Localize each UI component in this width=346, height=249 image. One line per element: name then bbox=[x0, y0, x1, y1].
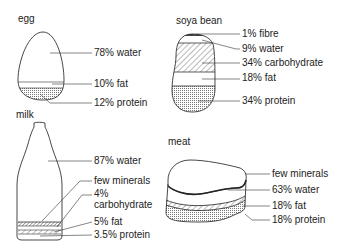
food-composition-diagram: egg 78% water 10% fat 12% protein soya b… bbox=[0, 0, 346, 249]
egg-water-label: 78% water bbox=[94, 47, 142, 58]
egg-title: egg bbox=[18, 13, 35, 24]
soya-bean-panel: soya bean 1% fibre 9% water 34% carbohyd… bbox=[165, 15, 324, 116]
milk-carbohydrate-label: carbohydrate bbox=[94, 199, 153, 210]
milk-minerals-label: few minerals bbox=[94, 175, 150, 186]
bean-carbohydrate-layer bbox=[165, 43, 220, 72]
bean-fat-label: 18% fat bbox=[242, 72, 276, 83]
milk-water-label: 87% water bbox=[94, 155, 142, 166]
milk-panel: milk 87% water few minerals 4% carbohydr… bbox=[16, 109, 153, 240]
bean-layers bbox=[165, 30, 220, 116]
soya-bean-title: soya bean bbox=[176, 15, 222, 26]
milk-fat-label: 5% fat bbox=[94, 216, 123, 227]
meat-top-outline bbox=[168, 160, 246, 194]
milk-protein-label: 3.5% protein bbox=[94, 229, 150, 240]
bean-water-label: 9% water bbox=[242, 43, 284, 54]
bean-carbohydrate-label: 34% carbohydrate bbox=[242, 57, 324, 68]
milk-carbohydrate-layer bbox=[18, 222, 61, 226]
bean-protein-label: 34% protein bbox=[242, 95, 295, 106]
egg-protein-label: 12% protein bbox=[94, 97, 147, 108]
milk-title: milk bbox=[16, 109, 35, 120]
meat-minerals-label: few minerals bbox=[272, 168, 328, 179]
meat-fat-label: 18% fat bbox=[272, 200, 306, 211]
meat-water-label: 63% water bbox=[272, 184, 320, 195]
meat-title: meat bbox=[168, 136, 190, 147]
egg-fat-label: 10% fat bbox=[94, 78, 128, 89]
meat-panel: meat few minerals 63% water 18% fat 18% … bbox=[166, 136, 328, 225]
egg-panel: egg 78% water 10% fat 12% protein bbox=[10, 13, 147, 108]
meat-protein-label: 18% protein bbox=[272, 214, 325, 225]
milk-carbohydrate-percent-label: 4% bbox=[94, 188, 109, 199]
bean-fibre-label: 1% fibre bbox=[242, 28, 279, 39]
